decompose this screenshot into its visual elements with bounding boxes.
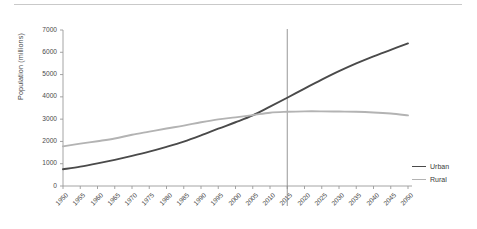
series-line-rural (63, 111, 408, 146)
legend-swatch-rural (412, 179, 426, 180)
legend-item-rural: Rural (412, 173, 449, 186)
legend-label-urban: Urban (430, 163, 449, 170)
chart-legend: UrbanRural (412, 160, 449, 186)
legend-swatch-urban (412, 166, 426, 167)
legend-label-rural: Rural (430, 176, 447, 183)
data-series (63, 43, 408, 169)
legend-item-urban: Urban (412, 160, 449, 173)
plot-area (0, 0, 477, 229)
population-line-chart: Population (millions) 010002000300040005… (0, 0, 477, 229)
series-line-urban (63, 43, 408, 169)
axes (60, 30, 412, 189)
